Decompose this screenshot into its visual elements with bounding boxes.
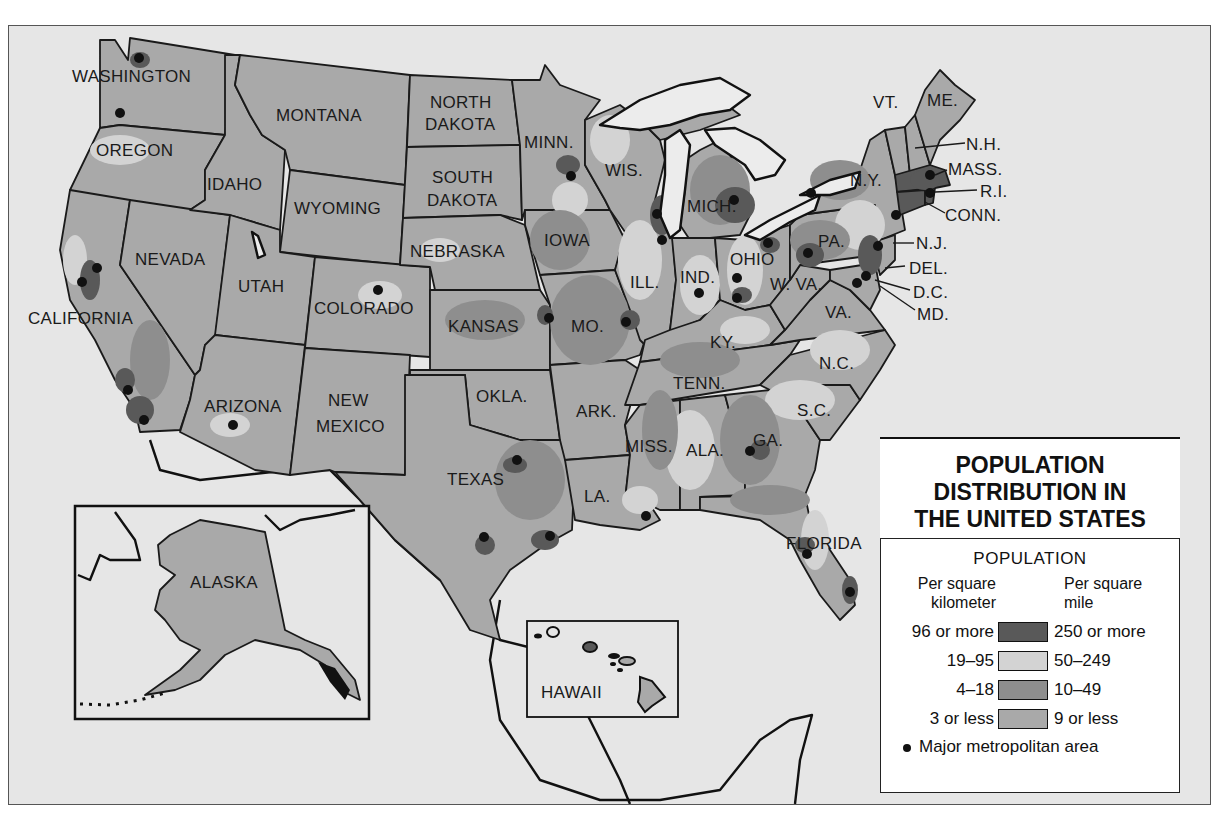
legend-body: POPULATION Per square Per square kilomet… xyxy=(880,538,1180,793)
class-swatch-very-sparse xyxy=(998,709,1048,729)
label-indiana: IND. xyxy=(680,268,715,287)
title-line-2: DISTRIBUTION IN xyxy=(880,479,1180,506)
label-new-mexico-2: MEXICO xyxy=(316,417,385,436)
label-ohio: OHIO xyxy=(730,250,775,269)
label-louisiana: LA. xyxy=(584,487,610,506)
state-new-mexico xyxy=(290,348,410,475)
label-massachusetts: MASS. xyxy=(948,160,1002,179)
class-km: 19–95 xyxy=(881,651,998,671)
class-mi: 10–49 xyxy=(1048,680,1101,700)
label-nebraska: NEBRASKA xyxy=(410,242,505,261)
title-line-3: THE UNITED STATES xyxy=(880,506,1180,533)
legend-classes: 96 or more 250 or more 19–95 50–249 4–18… xyxy=(881,617,1179,733)
unit-mi-label-2: mile xyxy=(1064,595,1174,611)
label-north-dakota-2: DAKOTA xyxy=(425,115,496,134)
label-minnesota: MINN. xyxy=(524,133,574,152)
class-km: 96 or more xyxy=(881,622,998,642)
class-km: 4–18 xyxy=(881,680,998,700)
hawaii-inset: HAWAII xyxy=(527,621,678,717)
legend: POPULATION DISTRIBUTION IN THE UNITED ST… xyxy=(880,437,1180,791)
label-nevada: NEVADA xyxy=(135,250,206,269)
label-new-york: N.Y. xyxy=(850,171,882,190)
label-arkansas: ARK. xyxy=(576,402,617,421)
label-texas: TEXAS xyxy=(447,470,504,489)
state-washington xyxy=(100,38,235,135)
label-maine: ME. xyxy=(927,91,958,110)
label-illinois: ILL. xyxy=(630,273,660,292)
label-wyoming: WYOMING xyxy=(294,199,381,218)
legend-units-row-1: Per square Per square xyxy=(881,576,1179,592)
label-rhode-island: R.I. xyxy=(980,182,1008,201)
unit-km-label-2: kilometer xyxy=(886,595,996,611)
class-swatch-sparse xyxy=(998,680,1048,700)
class-mi: 50–249 xyxy=(1048,651,1111,671)
label-hawaii: HAWAII xyxy=(541,683,602,702)
label-colorado: COLORADO xyxy=(314,299,414,318)
label-oklahoma: OKLA. xyxy=(476,387,528,406)
label-maryland: MD. xyxy=(917,305,949,324)
label-tennessee: TENN. xyxy=(673,374,726,393)
metro-label: Major metropolitan area xyxy=(919,737,1099,756)
label-dc: D.C. xyxy=(913,283,948,302)
label-kentucky: KY. xyxy=(710,333,736,352)
metro-dot-icon xyxy=(903,744,911,752)
class-km: 3 or less xyxy=(881,709,998,729)
label-west-virginia: W. VA. xyxy=(770,275,823,294)
state-connecticut xyxy=(897,190,925,215)
unit-km-label-1: Per square xyxy=(886,576,996,592)
label-vermont: VT. xyxy=(873,93,898,112)
class-swatch-dense xyxy=(998,622,1048,642)
lake-superior xyxy=(600,78,750,130)
class-mi: 9 or less xyxy=(1048,709,1118,729)
label-oregon: OREGON xyxy=(96,141,173,160)
alaska-inset: ALASKA xyxy=(75,506,369,719)
label-california: CALIFORNIA xyxy=(28,309,133,328)
unit-mi-label-1: Per square xyxy=(1064,576,1174,592)
label-iowa: IOWA xyxy=(544,231,590,250)
title-line-1: POPULATION xyxy=(880,452,1180,479)
map-title: POPULATION DISTRIBUTION IN THE UNITED ST… xyxy=(880,439,1180,540)
label-south-dakota-2: DAKOTA xyxy=(427,191,498,210)
label-new-hampshire: N.H. xyxy=(966,135,1001,154)
label-alaska: ALASKA xyxy=(190,573,258,592)
label-michigan: MICH. xyxy=(687,197,737,216)
label-arizona: ARIZONA xyxy=(204,397,282,416)
label-pennsylvania: PA. xyxy=(818,232,845,251)
legend-units-row-2: kilometer mile xyxy=(881,595,1179,611)
label-florida: FLORIDA xyxy=(786,534,862,553)
label-alabama: ALA. xyxy=(686,441,724,460)
label-montana: MONTANA xyxy=(276,106,362,125)
label-connecticut: CONN. xyxy=(945,206,1001,225)
label-idaho: IDAHO xyxy=(207,175,262,194)
label-north-carolina: N.C. xyxy=(819,354,854,373)
label-south-dakota-1: SOUTH xyxy=(432,168,493,187)
label-washington: WASHINGTON xyxy=(72,67,191,86)
label-south-carolina: S.C. xyxy=(797,401,831,420)
label-georgia: GA. xyxy=(753,431,783,450)
label-new-mexico-1: NEW xyxy=(328,391,369,410)
legend-heading: POPULATION xyxy=(881,549,1179,569)
legend-class-row: 19–95 50–249 xyxy=(881,646,1179,675)
legend-class-row: 3 or less 9 or less xyxy=(881,704,1179,733)
label-missouri: MO. xyxy=(571,317,604,336)
label-wisconsin: WIS. xyxy=(605,161,643,180)
label-new-jersey: N.J. xyxy=(916,234,947,253)
legend-class-row: 4–18 10–49 xyxy=(881,675,1179,704)
label-delaware: DEL. xyxy=(909,259,948,278)
label-utah: UTAH xyxy=(238,277,284,296)
label-mississippi: MISS. xyxy=(625,437,673,456)
legend-metro-item: Major metropolitan area xyxy=(881,737,1179,757)
label-north-dakota-1: NORTH xyxy=(430,93,492,112)
label-virginia: VA. xyxy=(825,303,852,322)
class-mi: 250 or more xyxy=(1048,622,1146,642)
class-swatch-moderate xyxy=(998,651,1048,671)
legend-class-row: 96 or more 250 or more xyxy=(881,617,1179,646)
label-kansas: KANSAS xyxy=(448,317,519,336)
